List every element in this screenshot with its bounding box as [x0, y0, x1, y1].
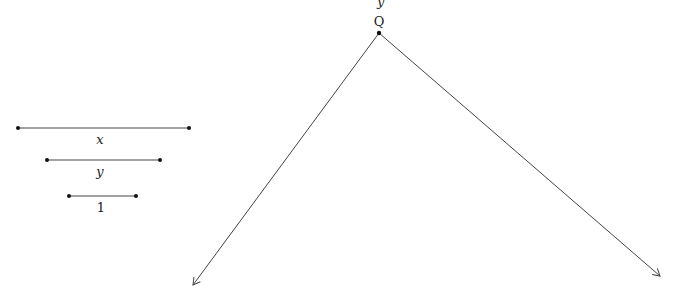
- segment-x-end-point: [187, 126, 191, 130]
- segment-unit: 1: [67, 194, 138, 215]
- segment-unit-label: 1: [97, 200, 105, 215]
- segment-unit-start-point: [67, 194, 71, 198]
- segment-y-end-point: [158, 158, 162, 162]
- vertex-label: Q: [374, 14, 385, 29]
- segment-y-label: y: [95, 164, 104, 179]
- left-ray: [193, 33, 379, 285]
- segment-y-start-point: [45, 158, 49, 162]
- angle-diagram: y x y 1 Q: [0, 0, 674, 291]
- right-ray: [379, 33, 660, 276]
- segment-x: x: [16, 126, 191, 147]
- segment-unit-end-point: [134, 194, 138, 198]
- segment-x-label: x: [96, 132, 104, 147]
- top-partial-label: y: [376, 0, 385, 9]
- vertex-point: [377, 31, 381, 35]
- segment-y: y: [45, 158, 162, 179]
- segment-x-start-point: [16, 126, 20, 130]
- angle-q: Q: [193, 14, 660, 285]
